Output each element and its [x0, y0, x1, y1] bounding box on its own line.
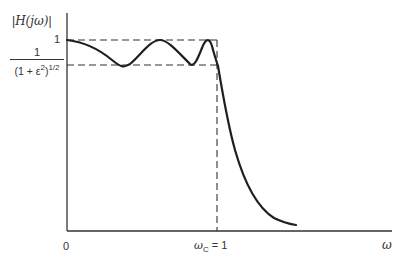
denominator-exponent-half: 1/2: [48, 63, 59, 72]
fraction-numerator: 1: [8, 46, 66, 58]
x-axis-title: ω: [382, 238, 392, 252]
x-tick-label-cutoff: ωC = 1: [194, 239, 227, 254]
chart-canvas: [0, 0, 406, 260]
y-axis-title: |H(jω)|: [12, 14, 52, 28]
x-tick-label-zero: 0: [63, 240, 69, 252]
omega-symbol: ω: [194, 239, 203, 252]
y-tick-label-ripple-fraction: 1 (1 + ε2)1/2: [8, 46, 66, 78]
y-axis-title-text: H(jω): [15, 14, 48, 28]
cutoff-equals-one: = 1: [209, 239, 228, 251]
abs-bar-right: |: [48, 14, 51, 28]
denominator-part-a: (1 + ε: [14, 65, 40, 77]
fraction-bar: [10, 59, 64, 60]
magnitude-response-curve: [67, 40, 296, 225]
y-tick-label-one: 1: [54, 33, 60, 45]
fraction-denominator: (1 + ε2)1/2: [8, 61, 66, 78]
